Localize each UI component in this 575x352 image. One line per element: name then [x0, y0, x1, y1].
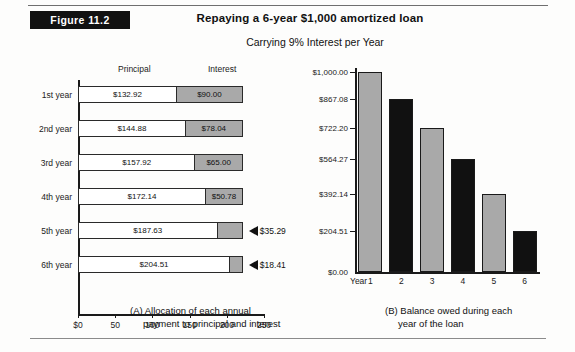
panel-b-caption: (B) Balance owed during each year of the… [385, 304, 565, 330]
panel-a-row-label: 5th year [24, 226, 72, 236]
panel-b-y-tick [350, 72, 355, 73]
panel-a-x-tick [115, 314, 116, 318]
panel-a-row-label: 1st year [24, 90, 72, 100]
panel-b-bar [389, 99, 413, 272]
panel-b-bar [513, 231, 537, 272]
panel-a-stacked-bar-chart: Principal Interest 1st year$132.92$90.00… [0, 58, 290, 288]
panel-a-row-label: 2nd year [24, 124, 72, 134]
figure-subtitle: Carrying 9% Interest per Year [165, 36, 465, 48]
panel-a-principal-segment: $172.14 [78, 188, 206, 205]
panel-b-y-tick [350, 128, 355, 129]
panel-a-stacked-bar: $157.92$65.00 [78, 154, 243, 171]
panel-a-callout-arrow [249, 226, 258, 236]
panel-b-bar-chart: $0.00$204.51$392.14$564.27$722.20$867.08… [288, 58, 575, 288]
panel-a-principal-segment: $187.63 [78, 222, 218, 239]
panel-b-x-tick-label: 5 [491, 276, 496, 286]
panel-b-y-tick-label: $1,000.00 [312, 68, 348, 77]
panel-b-x-tick-label: 1 [368, 276, 373, 286]
top-rule [28, 5, 548, 6]
panel-a-caption: (A) Allocation of each annual payment to… [130, 304, 340, 330]
panel-b-x-axis-line [355, 272, 540, 274]
panel-b-y-tick-label: $867.08 [319, 94, 348, 103]
panel-a-row-label: 3rd year [24, 158, 72, 168]
panel-a-principal-segment: $132.92 [78, 86, 177, 103]
panel-a-stacked-bar: $144.88$78.04 [78, 120, 243, 137]
panel-b-y-tick [350, 231, 355, 232]
panel-a-callout-label: $35.29 [260, 226, 286, 236]
panel-b-y-axis-line [355, 68, 357, 272]
column-header-principal: Principal [118, 64, 151, 74]
panel-b-x-tick-label: 3 [430, 276, 435, 286]
panel-a-stacked-bar: $132.92$90.00 [78, 86, 243, 103]
panel-b-y-tick [350, 159, 355, 160]
panel-a-x-tick-label: $0 [73, 320, 82, 330]
panel-b-bar [358, 72, 382, 272]
panel-a-interest-segment: $90.00 [176, 86, 243, 103]
panel-a-callout-arrow [249, 260, 258, 270]
panel-b-y-tick-label: $722.20 [319, 123, 348, 132]
panel-a-interest-segment [229, 256, 243, 273]
panel-a-caption-line1: (A) Allocation of each annual [130, 305, 251, 316]
panel-a-principal-segment: $204.51 [78, 256, 230, 273]
panel-b-y-tick [350, 99, 355, 100]
panel-b-bar [420, 128, 444, 272]
panel-a-interest-segment: $65.00 [194, 154, 242, 171]
panel-a-interest-segment: $78.04 [185, 120, 243, 137]
panel-a-x-tick [78, 314, 79, 318]
panel-a-row-label: 6th year [24, 260, 72, 270]
panel-b-caption-line1: (B) Balance owed during each [385, 305, 512, 316]
panel-a-callout-label: $18.41 [260, 260, 286, 270]
panel-b-bar [482, 194, 506, 272]
panel-a-interest-segment [217, 222, 243, 239]
panel-a-principal-segment: $144.88 [78, 120, 186, 137]
panel-a-principal-segment: $157.92 [78, 154, 195, 171]
panel-b-x-tick-label: 6 [522, 276, 527, 286]
panel-a-row-label: 4th year [24, 192, 72, 202]
panel-a-stacked-bar: $204.51 [78, 256, 243, 273]
panel-b-y-tick [350, 194, 355, 195]
panel-b-x-tick-label: 2 [399, 276, 404, 286]
panel-b-y-tick-label: $392.14 [319, 189, 348, 198]
figure-title: Repaying a 6-year $1,000 amortized loan [140, 12, 480, 24]
panel-b-caption-line2: year of the loan [385, 317, 565, 330]
panel-a-x-tick-label: 50 [110, 320, 119, 330]
panel-b-axis-word: Year [350, 276, 367, 286]
panel-b-y-tick-label: $0.00 [328, 268, 348, 277]
panel-a-stacked-bar: $187.63 [78, 222, 243, 239]
panel-b-bar [451, 159, 475, 272]
panel-b-y-tick-label: $204.51 [319, 227, 348, 236]
panel-a-caption-line2: payment to principal and interest [130, 317, 340, 330]
column-header-interest: Interest [208, 64, 236, 74]
panel-a-stacked-bar: $172.14$50.78 [78, 188, 243, 205]
panel-a-interest-segment: $50.78 [205, 188, 243, 205]
panel-b-x-tick-label: 4 [461, 276, 466, 286]
bottom-rule [30, 338, 546, 339]
panel-b-y-tick-label: $564.27 [319, 155, 348, 164]
figure-number-badge: Figure 11.2 [30, 11, 130, 29]
